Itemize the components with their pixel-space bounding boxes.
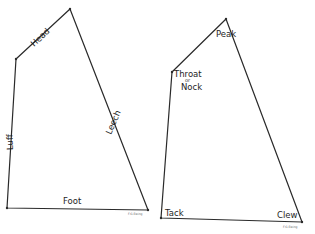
left-head-vertex bbox=[69, 8, 71, 10]
label-foot: Foot bbox=[63, 196, 82, 206]
label-tack: Tack bbox=[164, 208, 184, 218]
label-leech: Leech bbox=[104, 109, 123, 136]
label-clew: Clew bbox=[277, 210, 298, 220]
signature-left: F.G.Ewing bbox=[128, 212, 143, 216]
right-sail-outline bbox=[161, 19, 302, 222]
right-peak-vertex bbox=[225, 18, 227, 20]
left-tack-vertex bbox=[6, 207, 8, 209]
left-clew-vertex bbox=[147, 209, 149, 211]
right-throat-vertex bbox=[171, 71, 173, 73]
signature-right: F.G.Ewing bbox=[283, 225, 298, 229]
sail-diagram: Head Luff Leech Foot F.G.Ewing Peak Thro… bbox=[0, 0, 315, 234]
right-tack-vertex bbox=[160, 217, 162, 219]
label-nock: Nock bbox=[181, 82, 202, 92]
left-sail-outline bbox=[7, 9, 148, 210]
label-peak: Peak bbox=[216, 29, 236, 39]
right-clew-vertex bbox=[301, 221, 303, 223]
left-sail: Head Luff Leech Foot F.G.Ewing bbox=[4, 8, 149, 216]
label-luff: Luff bbox=[4, 133, 15, 150]
left-throat-vertex bbox=[15, 58, 17, 60]
right-sail: Peak Throat or Nock Tack Clew F.G.Ewing bbox=[160, 18, 303, 229]
